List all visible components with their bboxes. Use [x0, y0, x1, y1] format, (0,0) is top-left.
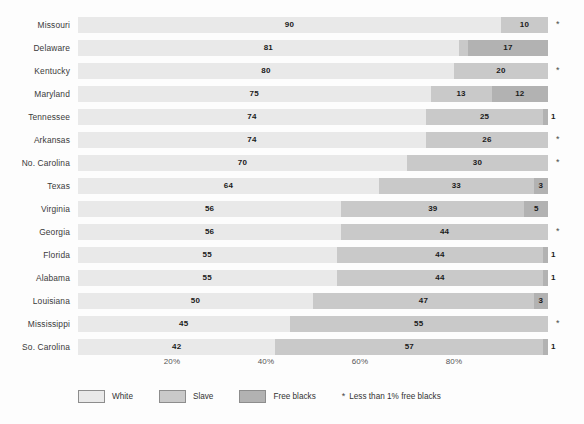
segment-value: 25: [426, 109, 544, 125]
stacked-bar: 64333: [78, 178, 548, 194]
state-label: Georgia: [0, 221, 70, 243]
segment-value-outside: 1: [551, 247, 555, 263]
stacked-bar: 7425: [78, 109, 548, 125]
state-label: Tennessee: [0, 106, 70, 128]
segment-value: 12: [492, 86, 548, 102]
segment-value: 44: [341, 224, 548, 240]
bar-segment-white: 80: [78, 63, 454, 79]
bar-segment-white: 42: [78, 339, 275, 355]
chart-row: Arkansas7426*: [0, 129, 584, 151]
legend-label: Slave: [193, 392, 213, 401]
bar-segment-slave: 44: [337, 270, 544, 286]
segment-value-outside: 1: [551, 270, 555, 286]
asterisk-marker: *: [556, 155, 560, 171]
stacked-bar: 8020: [78, 63, 548, 79]
bar-segment-white: 50: [78, 293, 313, 309]
chart-legend: WhiteSlaveFree blacks*Less than 1% free …: [78, 385, 558, 407]
legend-label: White: [112, 392, 133, 401]
stacked-bar-chart: Missouri9010*Delaware28117Kentucky8020*M…: [0, 0, 584, 424]
segment-value: 50: [78, 293, 313, 309]
chart-row: Louisiana50473: [0, 290, 584, 312]
segment-value: 80: [78, 63, 454, 79]
bar-segment-slave: 55: [290, 316, 549, 332]
segment-value-outside: 1: [551, 109, 555, 125]
bar-segment-slave: 47: [313, 293, 534, 309]
segment-value: 56: [78, 201, 341, 217]
state-label: Arkansas: [0, 129, 70, 151]
chart-row: Delaware28117: [0, 37, 584, 59]
bar-segment-free-blacks: 12: [492, 86, 548, 102]
chart-row: Virginia56395: [0, 198, 584, 220]
stacked-bar: 9010: [78, 17, 548, 33]
asterisk-marker: *: [556, 132, 560, 148]
bar-segment-white: 55: [78, 247, 337, 263]
bar-segment-white: 75: [78, 86, 431, 102]
chart-row: Maryland751312: [0, 83, 584, 105]
legend-item[interactable]: Slave: [159, 390, 213, 403]
segment-value: 74: [78, 109, 426, 125]
segment-value: 17: [468, 40, 548, 56]
chart-row: Texas64333: [0, 175, 584, 197]
segment-value: 39: [341, 201, 524, 217]
bar-segment-free-blacks: [543, 247, 548, 263]
stacked-bar: 5544: [78, 247, 548, 263]
bar-segment-white: 74: [78, 132, 426, 148]
state-label: Delaware: [0, 37, 70, 59]
state-label: Louisiana: [0, 290, 70, 312]
segment-value: 90: [78, 17, 501, 33]
segment-value: 57: [275, 339, 543, 355]
state-label: Mississippi: [0, 313, 70, 335]
segment-value: 56: [78, 224, 341, 240]
state-label: No. Carolina: [0, 152, 70, 174]
bar-segment-free-blacks: 3: [534, 178, 548, 194]
state-label: Texas: [0, 175, 70, 197]
segment-value: 20: [454, 63, 548, 79]
segment-value: 75: [78, 86, 431, 102]
state-label: Alabama: [0, 267, 70, 289]
asterisk-marker: *: [556, 316, 560, 332]
state-label: Kentucky: [0, 60, 70, 82]
stacked-bar: 8117: [78, 40, 548, 56]
state-label: So. Carolina: [0, 336, 70, 358]
segment-value: 5: [524, 201, 548, 217]
segment-value: 55: [78, 270, 337, 286]
bar-segment-free-blacks: [543, 109, 548, 125]
axis-tick-label: 60%: [352, 357, 369, 366]
asterisk-marker: *: [556, 224, 560, 240]
segment-value: 42: [78, 339, 275, 355]
bar-segment-slave: 26: [426, 132, 548, 148]
legend-swatch-icon: [159, 390, 186, 403]
bar-segment-slave: 44: [341, 224, 548, 240]
segment-value: 30: [407, 155, 548, 171]
bar-segment-white: 56: [78, 224, 341, 240]
segment-value: 10: [501, 17, 548, 33]
segment-value: 33: [379, 178, 534, 194]
stacked-bar: 50473: [78, 293, 548, 309]
legend-item[interactable]: White: [78, 390, 133, 403]
segment-value: 64: [78, 178, 379, 194]
segment-value: 44: [337, 247, 544, 263]
asterisk-marker: *: [556, 63, 560, 79]
segment-value-outside: 1: [551, 339, 555, 355]
bar-segment-slave: 20: [454, 63, 548, 79]
segment-value: 70: [78, 155, 407, 171]
chart-row: Alabama15544: [0, 267, 584, 289]
bar-segment-slave: 57: [275, 339, 543, 355]
segment-value: 3: [534, 293, 548, 309]
state-label: Maryland: [0, 83, 70, 105]
bar-segment-slave: [459, 40, 468, 56]
stacked-bar: 7030: [78, 155, 548, 171]
segment-value: 47: [313, 293, 534, 309]
x-axis: 20%40%60%80%: [78, 357, 548, 371]
segment-value: 74: [78, 132, 426, 148]
bar-segment-white: 55: [78, 270, 337, 286]
segment-value: 13: [431, 86, 492, 102]
stacked-bar: 5644: [78, 224, 548, 240]
stacked-bar: 7426: [78, 132, 548, 148]
legend-item[interactable]: Free blacks: [239, 390, 315, 403]
legend-footnote: *Less than 1% free blacks: [342, 391, 441, 401]
segment-value: 45: [78, 316, 290, 332]
bar-segment-white: 56: [78, 201, 341, 217]
bar-segment-white: 64: [78, 178, 379, 194]
bar-segment-white: 81: [78, 40, 459, 56]
